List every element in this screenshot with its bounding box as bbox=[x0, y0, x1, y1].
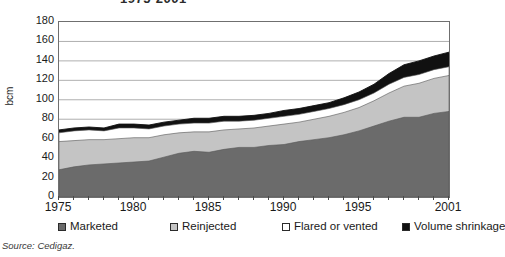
legend-item-flared-or-vented[interactable]: Flared or vented bbox=[282, 220, 378, 233]
tick-mark bbox=[73, 196, 74, 200]
x-tick-label: 1985 bbox=[195, 200, 222, 214]
tick-mark bbox=[268, 196, 269, 200]
tick-mark bbox=[358, 196, 359, 200]
tick-mark bbox=[58, 196, 59, 200]
legend-label: Volume shrinkage bbox=[414, 220, 505, 233]
x-tick-label: 2001 bbox=[435, 200, 462, 214]
chart-title: 1975-2001 bbox=[120, 0, 187, 6]
tick-mark bbox=[163, 196, 164, 200]
legend-label: Marketed bbox=[70, 220, 118, 233]
tick-mark bbox=[193, 196, 194, 200]
tick-mark bbox=[418, 196, 419, 200]
tick-mark bbox=[253, 196, 254, 200]
chart-legend: MarketedReinjectedFlared or ventedVolume… bbox=[58, 220, 462, 236]
y-tick-label: 100 bbox=[18, 93, 54, 104]
y-axis-label: bcm bbox=[4, 76, 15, 116]
tick-mark bbox=[88, 196, 89, 200]
legend-label: Flared or vented bbox=[294, 220, 378, 233]
tick-mark bbox=[403, 196, 404, 200]
area-series-layers bbox=[59, 52, 449, 197]
legend-label: Reinjected bbox=[182, 220, 236, 233]
x-axis-tick-labels: 197519801985199019952001 bbox=[0, 200, 475, 216]
tick-mark bbox=[388, 196, 389, 200]
source-note: Source: Cedigaz. bbox=[2, 240, 75, 251]
legend-swatch-icon bbox=[58, 223, 66, 231]
tick-mark bbox=[148, 196, 149, 200]
legend-item-reinjected[interactable]: Reinjected bbox=[170, 220, 236, 233]
tick-mark bbox=[448, 196, 449, 200]
x-tick-label: 1980 bbox=[120, 200, 147, 214]
tick-mark bbox=[238, 196, 239, 200]
plot-area bbox=[58, 21, 450, 198]
x-tick-label: 1975 bbox=[45, 200, 72, 214]
legend-swatch-icon bbox=[170, 223, 178, 231]
y-axis-tick-labels: 020406080100120140160180 bbox=[18, 21, 54, 196]
tick-mark bbox=[223, 196, 224, 200]
y-tick-label: 80 bbox=[18, 112, 54, 123]
tick-mark bbox=[133, 196, 134, 200]
x-tick-label: 1995 bbox=[345, 200, 372, 214]
x-tick-label: 1990 bbox=[270, 200, 297, 214]
x-axis-tick-marks bbox=[0, 196, 475, 201]
tick-mark bbox=[208, 196, 209, 200]
y-tick-label: 60 bbox=[18, 132, 54, 143]
tick-mark bbox=[433, 196, 434, 200]
tick-mark bbox=[373, 196, 374, 200]
legend-item-volume-shrinkage[interactable]: Volume shrinkage bbox=[402, 220, 505, 233]
legend-swatch-icon bbox=[282, 223, 290, 231]
y-tick-label: 180 bbox=[18, 15, 54, 26]
tick-mark bbox=[118, 196, 119, 200]
stacked-area-plot bbox=[59, 22, 449, 197]
tick-mark bbox=[178, 196, 179, 200]
y-tick-label: 120 bbox=[18, 73, 54, 84]
tick-mark bbox=[328, 196, 329, 200]
legend-swatch-icon bbox=[402, 223, 410, 231]
tick-mark bbox=[298, 196, 299, 200]
legend-item-marketed[interactable]: Marketed bbox=[58, 220, 118, 233]
tick-mark bbox=[283, 196, 284, 200]
y-tick-label: 40 bbox=[18, 151, 54, 162]
y-tick-label: 140 bbox=[18, 54, 54, 65]
y-tick-label: 20 bbox=[18, 171, 54, 182]
tick-mark bbox=[103, 196, 104, 200]
tick-mark bbox=[343, 196, 344, 200]
tick-mark bbox=[313, 196, 314, 200]
y-tick-label: 160 bbox=[18, 34, 54, 45]
